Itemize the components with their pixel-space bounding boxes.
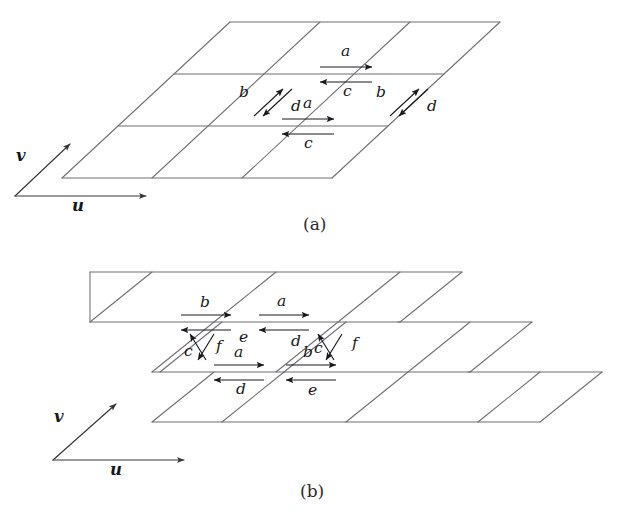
caption-b: (b) xyxy=(300,483,324,500)
label-d-low: d xyxy=(236,382,246,398)
arrow-d-left xyxy=(263,89,292,116)
panel-a-identification-arrows xyxy=(254,67,428,134)
grid-line-b3-edge0 xyxy=(152,372,214,422)
axis-label-v-a: v xyxy=(16,148,26,165)
label-b-low: b xyxy=(303,345,313,361)
panel-a-axes xyxy=(15,144,146,196)
label-f-right: f xyxy=(352,336,358,352)
label-a-lower: a xyxy=(303,96,312,112)
grid-line-a-d0 xyxy=(62,22,230,178)
grid-line-b3-edge1 xyxy=(346,372,408,422)
arrow-b-right xyxy=(390,89,419,116)
caption-a: (a) xyxy=(303,216,326,233)
axis-label-u-b: u xyxy=(110,462,122,479)
panel-b-lattice xyxy=(90,272,602,422)
label-b-right: b xyxy=(376,85,386,101)
grid-line-b3-edge3 xyxy=(540,372,602,422)
label-d-mid: d xyxy=(291,334,301,350)
label-a-low: a xyxy=(234,345,243,361)
label-a-upper: a xyxy=(341,44,350,60)
arrow-f-left xyxy=(198,334,214,360)
figure-root: a c b d a c b d v u (a) b a e f d c c f … xyxy=(0,0,636,519)
arrow-d-right xyxy=(399,89,428,116)
label-b-left: b xyxy=(239,85,249,101)
arrow-b-left xyxy=(254,89,283,116)
grid-line-b2-edge3 xyxy=(470,322,532,372)
label-c-left: c xyxy=(184,344,193,360)
label-d-left: d xyxy=(291,99,301,115)
axis-label-v-b: v xyxy=(54,409,64,426)
label-e-low: e xyxy=(308,383,317,399)
label-d-right: d xyxy=(427,99,437,115)
label-c-right: c xyxy=(314,341,323,357)
axis-label-u-a: u xyxy=(72,198,84,215)
label-b-top: b xyxy=(200,295,210,311)
diagram-canvas xyxy=(0,0,636,519)
label-f-left: f xyxy=(216,339,222,355)
label-a-top: a xyxy=(277,294,286,310)
grid-line-b1-edge3 xyxy=(400,272,462,322)
arrow-f-right xyxy=(326,334,342,360)
grid-line-b1-edge0b xyxy=(90,272,152,322)
grid-line-b1-edge2 xyxy=(338,272,400,322)
grid-line-b2-edge2 xyxy=(408,322,470,372)
label-c-lower: c xyxy=(304,136,313,152)
label-c-upper: c xyxy=(343,84,352,100)
grid-line-b3-edge2 xyxy=(478,372,540,422)
